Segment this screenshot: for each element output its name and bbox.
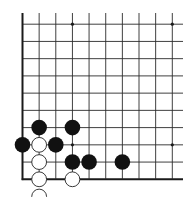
go-board[interactable] (0, 0, 195, 197)
white-stone-icon (32, 172, 47, 187)
black-stone-icon (65, 154, 81, 170)
black-stone-icon (31, 120, 47, 136)
black-stone-icon (65, 120, 81, 136)
white-stone-icon (32, 155, 47, 170)
board-grid (22, 13, 183, 180)
black-stone-icon (115, 154, 131, 170)
star-point-icon (171, 143, 174, 146)
star-point-icon (71, 143, 74, 146)
black-stone-icon (81, 154, 97, 170)
white-stone-icon (32, 189, 47, 197)
white-stone-icon (32, 137, 47, 152)
star-point-icon (71, 23, 74, 26)
black-stone-icon (48, 137, 64, 153)
black-stone-icon (15, 137, 31, 153)
stones-layer (15, 120, 130, 197)
white-stone-icon (65, 172, 80, 187)
star-point-icon (171, 23, 174, 26)
